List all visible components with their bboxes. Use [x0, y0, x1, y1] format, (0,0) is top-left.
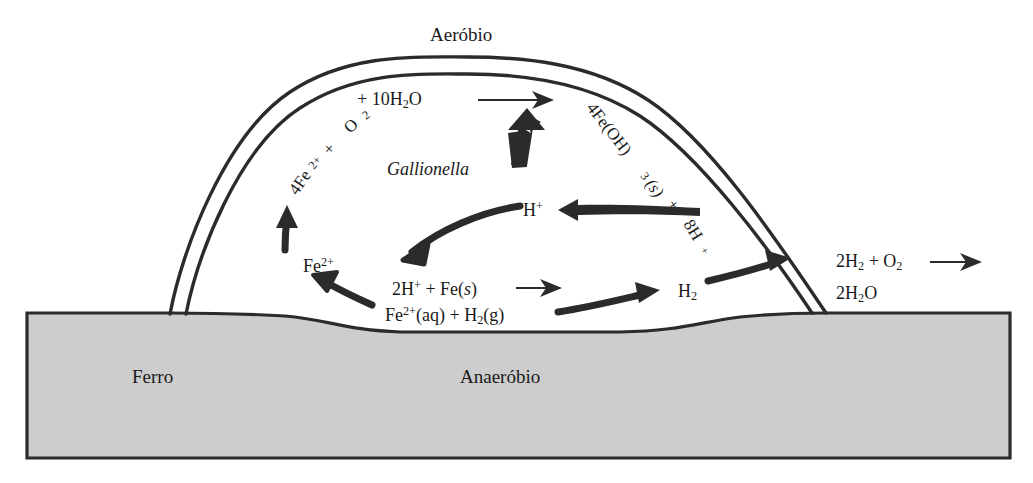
- equation-left-arc: 4Fe 2+ + O 2: [285, 108, 373, 199]
- equation-right-line2: 2H2O: [836, 284, 877, 305]
- species-proton: H+: [523, 200, 543, 219]
- svg-text:2+: 2+: [305, 153, 324, 172]
- figure-canvas: 4Fe 2+ + O 2 4Fe(OH) 3 (s) + 8H +: [0, 0, 1033, 483]
- label-aerobic: Aeróbio: [430, 25, 492, 44]
- species-ferrous: Fe2+: [303, 256, 334, 275]
- equation-top-middle: + 10H2O: [357, 90, 422, 111]
- flow-arrow-proton-to-iron: [403, 206, 520, 264]
- flow-arrow-ferrous-out: [313, 272, 372, 305]
- svg-text:4Fe: 4Fe: [285, 167, 315, 199]
- equation-anodic-line1: 2H+ + Fe(s): [392, 279, 477, 298]
- svg-text:+: +: [319, 139, 340, 159]
- svg-text:O: O: [340, 115, 362, 137]
- flow-arrow-up-center: [508, 108, 545, 168]
- flow-arrow-hydrogen-2: [708, 250, 791, 281]
- flow-arrow-hydrogen-1: [558, 282, 660, 312]
- svg-text:8H: 8H: [680, 216, 707, 244]
- equation-right-line1: 2H2 + O2: [836, 252, 902, 273]
- label-anaerobic: Anaeróbio: [460, 367, 540, 386]
- label-gallionella: Gallionella: [387, 160, 469, 178]
- equation-anodic-line2: Fe2+(aq) + H2(g): [385, 305, 504, 326]
- label-iron: Ferro: [132, 367, 173, 386]
- flow-arrow-ferrous-up: [276, 205, 298, 250]
- diagram-artwork: 4Fe 2+ + O 2 4Fe(OH) 3 (s) + 8H +: [0, 0, 1033, 483]
- species-hydrogen: H2: [678, 282, 697, 303]
- svg-text:+: +: [698, 245, 711, 257]
